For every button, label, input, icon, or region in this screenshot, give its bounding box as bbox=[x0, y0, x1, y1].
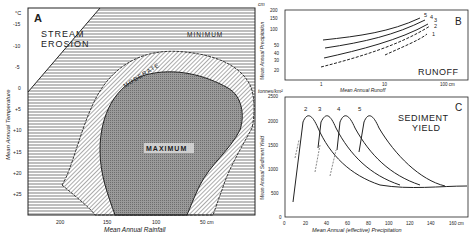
panel-b-runoff: B RUNOFF 5 4 3 2 1 cm 200 150 100 50 40 … bbox=[258, 1, 468, 93]
panel-a-y-label: Mean Annual Temperature bbox=[5, 89, 11, 160]
svg-text:+20: +20 bbox=[13, 170, 22, 176]
panel-b-letter: B bbox=[455, 16, 462, 27]
svg-text:120: 120 bbox=[406, 221, 414, 226]
svg-text:-5: -5 bbox=[15, 64, 20, 70]
svg-text:40: 40 bbox=[274, 51, 280, 56]
svg-text:1500: 1500 bbox=[268, 143, 279, 148]
svg-text:0: 0 bbox=[279, 215, 282, 220]
svg-text:-15: -15 bbox=[13, 21, 20, 27]
svg-text:1: 1 bbox=[432, 31, 435, 37]
panel-c-title-2: YIELD bbox=[412, 123, 441, 133]
svg-text:+10: +10 bbox=[13, 127, 22, 133]
svg-text:160 cm: 160 cm bbox=[449, 221, 464, 226]
svg-text:200: 200 bbox=[56, 219, 65, 225]
panel-c-title-1: SEDIMENT bbox=[398, 113, 449, 123]
svg-text:4: 4 bbox=[430, 14, 433, 20]
panel-b-x-label: Mean Annual Runoff bbox=[340, 87, 386, 93]
panel-a-letter: A bbox=[34, 12, 42, 24]
panel-a-y-ticks: -15 -10 -5 0 +5 +10 +15 +20 +25 bbox=[13, 21, 22, 197]
svg-text:100: 100 bbox=[152, 219, 161, 225]
panel-c-x-ticks: 0 20 40 60 80 100 120 140 160 cm bbox=[283, 221, 464, 226]
figure: A STREAM EROSION MINIMUM MODERATE MAXIMU… bbox=[0, 0, 474, 239]
svg-text:0: 0 bbox=[18, 85, 21, 91]
svg-text:40: 40 bbox=[324, 221, 330, 226]
svg-text:1000: 1000 bbox=[268, 167, 279, 172]
svg-text:150: 150 bbox=[270, 16, 278, 21]
svg-text:2500: 2500 bbox=[268, 94, 279, 99]
panel-a-title-2: EROSION bbox=[41, 39, 90, 49]
svg-text:1: 1 bbox=[320, 82, 323, 87]
svg-text:100: 100 bbox=[270, 27, 278, 32]
svg-text:20: 20 bbox=[303, 221, 309, 226]
zone-label-maximum: MAXIMUM bbox=[146, 145, 187, 152]
svg-text:60: 60 bbox=[345, 221, 351, 226]
svg-text:50 cm: 50 cm bbox=[200, 219, 214, 225]
panel-c-sediment-yield: C SEDIMENT YIELD 2 3 4 5 tonnes/km² 2500… bbox=[258, 88, 468, 233]
panel-b-y-ticks: 200 150 100 50 40 30 20 bbox=[270, 8, 280, 73]
svg-text:100 cm: 100 cm bbox=[440, 82, 455, 87]
svg-text:80: 80 bbox=[366, 221, 372, 226]
panel-c-x-label: Mean Annual (effective) Precipitation bbox=[312, 227, 402, 233]
svg-text:0: 0 bbox=[283, 221, 286, 226]
svg-text:30: 30 bbox=[274, 58, 280, 63]
zone-label-minimum: MINIMUM bbox=[187, 31, 223, 38]
svg-text:+5: +5 bbox=[15, 106, 21, 112]
svg-text:200: 200 bbox=[270, 8, 278, 13]
panel-b-y-unit: cm bbox=[258, 1, 265, 7]
panel-a-x-label: Mean Annual Rainfall bbox=[104, 226, 166, 233]
panel-b-title: RUNOFF bbox=[418, 67, 459, 77]
panel-c-letter: C bbox=[455, 102, 462, 113]
panel-a-title-1: STREAM bbox=[41, 29, 85, 39]
svg-text:2: 2 bbox=[434, 23, 437, 29]
panel-a-y-unit: °C bbox=[15, 10, 21, 16]
svg-text:-10: -10 bbox=[13, 43, 20, 49]
svg-text:2000: 2000 bbox=[268, 119, 279, 124]
panel-c-y-ticks: 2500 2000 1500 1000 500 0 bbox=[268, 94, 282, 220]
panel-c-y-label: Mean Annual Sediment Yield bbox=[259, 136, 265, 200]
svg-text:140: 140 bbox=[427, 221, 435, 226]
svg-text:100: 100 bbox=[385, 221, 393, 226]
svg-text:150: 150 bbox=[103, 219, 112, 225]
panel-a-x-ticks: 200 150 100 50 cm bbox=[56, 219, 214, 225]
svg-text:+25: +25 bbox=[13, 191, 22, 197]
svg-text:5: 5 bbox=[424, 12, 427, 18]
panel-b-y-label: Mean Annual Precipitation bbox=[259, 22, 265, 80]
panel-a-stream-erosion: A STREAM EROSION MINIMUM MODERATE MAXIMU… bbox=[5, 8, 255, 233]
svg-text:+15: +15 bbox=[13, 149, 22, 155]
svg-text:50: 50 bbox=[274, 43, 280, 48]
svg-text:500: 500 bbox=[271, 191, 279, 196]
svg-text:20: 20 bbox=[274, 68, 280, 73]
